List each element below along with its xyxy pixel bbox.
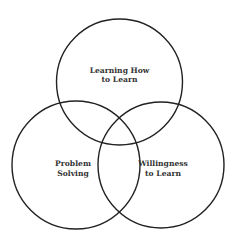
label-willingness-to-learn-line2: to Learn [145, 169, 181, 178]
set-problem-solving: Problem Solving [12, 101, 140, 229]
label-learning-how-to-learn-line2: to Learn [102, 75, 138, 84]
venn-diagram: Learning How to Learn Problem Solving Wi… [0, 0, 237, 246]
set-willingness-to-learn: Willingness to Learn [98, 102, 224, 228]
set-learning-how-to-learn: Learning How to Learn [57, 19, 183, 145]
label-problem-solving-line1: Problem [55, 159, 91, 168]
label-willingness-to-learn-line1: Willingness [137, 159, 188, 168]
label-problem-solving-line2: Solving [57, 169, 89, 178]
label-learning-how-to-learn-line1: Learning How [90, 66, 150, 75]
